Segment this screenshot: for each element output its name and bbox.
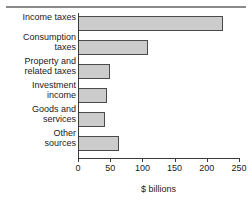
- category-label-property-and-related-taxes: Property and related taxes: [0, 56, 76, 76]
- bar: [78, 136, 119, 151]
- category-label-line2: taxes: [0, 42, 76, 52]
- x-tick-mark: [110, 158, 111, 162]
- category-axis-labels: Income taxes Consumption taxes Property …: [0, 13, 76, 158]
- y-axis-line: [78, 13, 79, 159]
- category-label-line2: income: [0, 90, 76, 100]
- x-tick-mark: [239, 158, 240, 162]
- category-label-line1: Income taxes: [0, 12, 76, 22]
- category-label-income-taxes: Income taxes: [0, 12, 76, 22]
- x-tick-label: 0: [66, 163, 90, 174]
- category-label-line1: Other: [0, 128, 76, 138]
- x-tick-mark: [175, 158, 176, 162]
- chart-figure: Income taxes Consumption taxes Property …: [0, 0, 252, 209]
- bar-slot: [78, 133, 239, 157]
- bar-chart-plot: Income taxes Consumption taxes Property …: [0, 0, 252, 209]
- bar: [78, 64, 110, 79]
- bar: [78, 112, 105, 127]
- category-label-line1: Property and: [0, 56, 76, 66]
- x-tick-label: 150: [163, 163, 187, 174]
- x-axis-title: $ billions: [78, 184, 239, 194]
- category-label-line2: related taxes: [0, 66, 76, 76]
- x-tick-mark: [142, 158, 143, 162]
- bar: [78, 40, 148, 55]
- category-label-other-sources: Other sources: [0, 128, 76, 148]
- category-label-goods-and-services: Goods and services: [0, 104, 76, 124]
- x-tick-label: 100: [130, 163, 154, 174]
- bar-series: [78, 13, 239, 158]
- bar: [78, 16, 223, 31]
- bar-slot: [78, 61, 239, 85]
- category-label-line1: Investment: [0, 80, 76, 90]
- x-tick-mark: [207, 158, 208, 162]
- x-tick-label: 200: [195, 163, 219, 174]
- category-label-consumption-taxes: Consumption taxes: [0, 32, 76, 52]
- bar-slot: [78, 85, 239, 109]
- category-label-line2: services: [0, 114, 76, 124]
- bar-slot: [78, 37, 239, 61]
- bar-slot: [78, 109, 239, 133]
- category-label-line1: Consumption: [0, 32, 76, 42]
- x-tick-mark: [78, 158, 79, 162]
- bar-slot: [78, 13, 239, 37]
- x-tick-label: 250: [227, 163, 251, 174]
- x-tick-label: 50: [98, 163, 122, 174]
- category-label-investment-income: Investment income: [0, 80, 76, 100]
- x-axis-line: [78, 158, 239, 159]
- category-label-line1: Goods and: [0, 104, 76, 114]
- bar: [78, 88, 107, 103]
- category-label-line2: sources: [0, 138, 76, 148]
